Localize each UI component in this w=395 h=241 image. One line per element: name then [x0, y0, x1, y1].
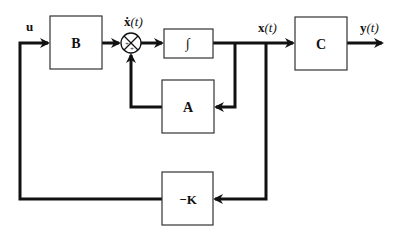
block-c-label: C — [316, 37, 326, 52]
wire-a-to-sum — [131, 55, 162, 107]
block-integrator: ∫ — [164, 29, 213, 58]
block-b: B — [50, 16, 102, 69]
wire-x-to-a — [216, 43, 235, 107]
block-k-label: −K — [179, 192, 197, 207]
sum-sign-bottom: + — [130, 45, 134, 53]
block-diagram: B ∫ A C −K + + u ẋ(t) x(t) y(t) — [0, 0, 395, 241]
block-a-label: A — [183, 100, 194, 115]
wire-x-to-k — [215, 43, 266, 199]
signal-y-label: y(t) — [360, 20, 379, 35]
signal-x-label: x(t) — [258, 20, 277, 35]
sum-sign-left: + — [125, 40, 129, 48]
block-b-label: B — [71, 36, 80, 51]
signal-u-label: u — [26, 19, 33, 34]
block-k: −K — [162, 172, 213, 225]
signal-xdot-label: ẋ(t) — [124, 14, 143, 29]
block-c: C — [295, 17, 347, 70]
block-a: A — [162, 80, 214, 133]
summing-junction: + + — [121, 33, 141, 53]
